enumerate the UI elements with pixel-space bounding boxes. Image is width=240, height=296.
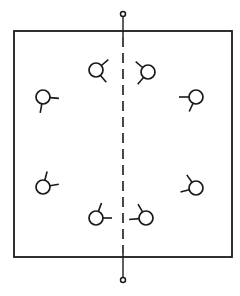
bottom-terminal-icon [121, 278, 126, 283]
symbol-circle [89, 211, 103, 225]
symbol-lead [40, 104, 42, 113]
symbol-circle [189, 181, 203, 195]
symbol-left-upper-icon [36, 90, 59, 113]
symbol-circle [189, 90, 203, 104]
enclosure-box [14, 31, 232, 257]
symbol-circle [141, 65, 155, 79]
symbol-lead [181, 190, 190, 192]
top-terminal-icon [121, 12, 126, 17]
symbol-circle [36, 180, 50, 194]
symbol-circle [139, 211, 153, 225]
symbol-bottom-left-inner-icon [89, 203, 112, 225]
symbol-right-lower-icon [181, 175, 204, 195]
symbol-left-lower-icon [36, 172, 59, 195]
symbol-lead [50, 184, 59, 186]
symbol-circle [89, 63, 103, 77]
symbol-lead [187, 175, 192, 182]
diagram-canvas [0, 0, 240, 296]
symbol-lead [101, 60, 108, 66]
symbol-lead [136, 62, 143, 68]
symbol-circle [36, 90, 50, 104]
symbol-group [36, 60, 203, 225]
symbol-lead [138, 204, 143, 212]
symbol-lead [45, 172, 47, 181]
symbol-lead [129, 219, 139, 220]
symbol-bottom-right-inner-icon [129, 204, 153, 225]
symbol-top-right-inner-icon [136, 62, 155, 85]
schematic-diagram [0, 0, 240, 296]
symbol-lead [98, 203, 101, 211]
symbol-lead [138, 77, 144, 84]
symbol-right-upper-icon [179, 90, 203, 112]
symbol-top-left-inner-icon [89, 60, 108, 83]
symbol-lead [50, 98, 59, 99]
symbol-lead [189, 103, 193, 111]
symbol-lead [101, 75, 107, 82]
